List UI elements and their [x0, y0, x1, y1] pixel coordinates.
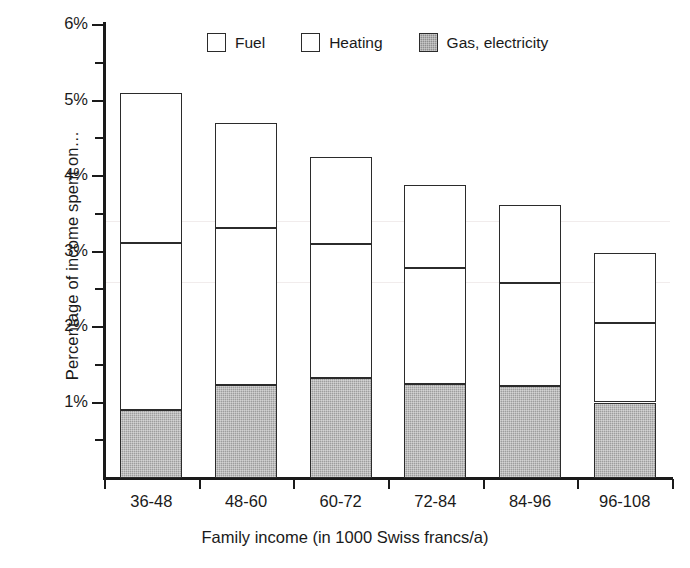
y-tick-major	[92, 24, 103, 26]
y-tick-major	[92, 326, 103, 328]
y-tick-label: 3%	[34, 241, 88, 260]
guide-line-artifact	[104, 282, 670, 283]
bar-segment-heating	[215, 228, 277, 385]
y-tick-major	[92, 251, 103, 253]
x-tick-label: 72-84	[385, 492, 485, 511]
legend-item-label: Fuel	[235, 34, 265, 52]
y-tick-label: 4%	[34, 165, 88, 184]
bar-segment-fuel	[499, 205, 561, 284]
bar-segment-gas-electricity	[310, 378, 372, 478]
white-square-icon	[207, 33, 226, 52]
x-tick	[672, 479, 674, 489]
bar-stack	[215, 0, 277, 478]
bar-segment-heating	[120, 243, 182, 410]
bar-segment-heating	[594, 323, 656, 402]
y-axis-line	[103, 22, 106, 480]
bar-segment-gas-electricity	[120, 410, 182, 478]
y-tick-minor	[95, 364, 103, 366]
x-tick	[293, 479, 295, 489]
bar-segment-heating	[310, 244, 372, 378]
bar-stack	[310, 0, 372, 478]
bar-segment-gas-electricity	[499, 386, 561, 478]
x-tick-label: 48-60	[196, 492, 296, 511]
chart-legend: FuelHeatingGas, electricity	[207, 33, 548, 52]
y-tick-label: 2%	[34, 316, 88, 335]
bar-segment-fuel	[215, 123, 277, 228]
bar-segment-fuel	[594, 253, 656, 323]
bar-segment-heating	[499, 283, 561, 386]
x-tick-label: 60-72	[291, 492, 391, 511]
y-tick-minor	[95, 439, 103, 441]
bar-segment-gas-electricity	[594, 403, 656, 479]
bar-stack	[499, 0, 561, 478]
guide-line-artifact	[104, 221, 670, 222]
stacked-bar-chart: Percentage of income spent on… 1%2%3%4%5…	[0, 0, 690, 568]
y-tick-minor	[95, 137, 103, 139]
bar-segment-fuel	[404, 185, 466, 268]
x-tick-label: 96-108	[575, 492, 675, 511]
y-tick-major	[92, 402, 103, 404]
bar-stack	[120, 0, 182, 478]
bar-segment-fuel	[120, 93, 182, 243]
x-tick-label: 84-96	[480, 492, 580, 511]
bar-stack	[594, 0, 656, 478]
legend-item-label: Heating	[329, 34, 382, 52]
bar-segment-fuel	[310, 157, 372, 244]
x-axis-title: Family income (in 1000 Swiss francs/a)	[0, 528, 690, 547]
legend-item: Fuel	[207, 33, 265, 52]
y-tick-minor	[95, 213, 103, 215]
y-tick-label: 6%	[34, 14, 88, 33]
legend-item: Gas, electricity	[419, 33, 549, 52]
bar-segment-heating	[404, 268, 466, 384]
white-square-icon	[301, 33, 320, 52]
x-tick	[104, 479, 106, 489]
legend-item: Heating	[301, 33, 382, 52]
hatched-square-icon	[419, 33, 438, 52]
x-tick	[577, 479, 579, 489]
y-tick-minor	[95, 62, 103, 64]
bar-segment-gas-electricity	[404, 384, 466, 478]
y-tick-label: 5%	[34, 90, 88, 109]
bar-stack	[404, 0, 466, 478]
y-tick-major	[92, 100, 103, 102]
x-tick	[483, 479, 485, 489]
y-tick-minor	[95, 288, 103, 290]
legend-item-label: Gas, electricity	[447, 34, 549, 52]
x-tick-label: 36-48	[101, 492, 201, 511]
bar-segment-gas-electricity	[215, 385, 277, 478]
y-tick-major	[92, 175, 103, 177]
x-tick	[199, 479, 201, 489]
y-tick-label: 1%	[34, 392, 88, 411]
x-tick	[388, 479, 390, 489]
